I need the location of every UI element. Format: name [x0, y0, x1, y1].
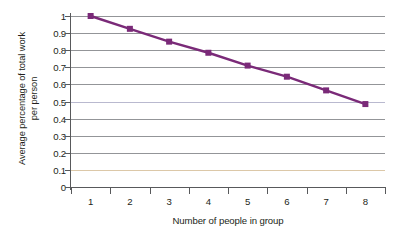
y-axis-tick-label: 0.6	[34, 79, 66, 90]
x-axis-tick-mark	[110, 188, 111, 194]
data-point-marker	[245, 63, 251, 69]
x-axis-tick-labels: 12345678	[71, 196, 385, 210]
x-axis-tick-mark	[71, 188, 72, 194]
data-series-line	[71, 16, 385, 187]
y-axis-tick-label: 0.5	[34, 96, 66, 107]
y-axis-tick-mark	[65, 102, 71, 103]
x-axis-tick-label: 2	[118, 196, 142, 207]
x-axis-tick-label: 4	[196, 196, 220, 207]
x-axis-tick-label: 7	[314, 196, 338, 207]
y-axis-tick-mark	[65, 119, 71, 120]
y-axis-tick-label: 0.2	[34, 147, 66, 158]
x-axis-tick-label: 6	[275, 196, 299, 207]
y-axis-tick-label: 0	[34, 182, 66, 193]
data-point-marker	[205, 50, 211, 56]
y-axis-tick-label: 0.3	[34, 130, 66, 141]
x-axis-tick-mark	[307, 188, 308, 194]
data-point-marker	[323, 87, 329, 93]
y-axis-tick-label: 1	[34, 11, 66, 22]
y-axis-tick-mark	[65, 136, 71, 137]
y-axis-tick-mark	[65, 84, 71, 85]
y-axis-title-line-1: Average percentage of total work	[18, 31, 30, 164]
x-axis-tick-mark	[228, 188, 229, 194]
y-axis-tick-mark	[65, 153, 71, 154]
x-axis-tick-label: 3	[157, 196, 181, 207]
data-point-marker	[362, 101, 368, 107]
y-axis-tick-mark	[65, 33, 71, 34]
y-axis-tick-label: 0.7	[34, 62, 66, 73]
data-point-marker	[166, 39, 172, 45]
y-axis-tick-mark	[65, 170, 71, 171]
x-axis-tick-mark	[267, 188, 268, 194]
x-axis-tick-mark	[346, 188, 347, 194]
y-axis-tick-label: 0.9	[34, 28, 66, 39]
y-axis-tick-label: 0.1	[34, 164, 66, 175]
x-axis-tick-label: 5	[236, 196, 260, 207]
plot-area	[71, 16, 385, 187]
y-axis-tick-mark	[65, 67, 71, 68]
data-point-marker	[88, 13, 94, 19]
y-axis-tick-label: 0.4	[34, 113, 66, 124]
x-axis-title: Number of people in group	[71, 215, 385, 226]
x-axis-tick-label: 1	[79, 196, 103, 207]
y-axis-tick-mark	[65, 16, 71, 17]
y-axis-tick-mark	[65, 50, 71, 51]
y-axis-tick-label: 0.8	[34, 45, 66, 56]
chart-screenshot: Average percentage of total work per per…	[0, 0, 408, 243]
data-point-marker	[127, 26, 133, 32]
x-axis-tick-mark	[385, 188, 386, 194]
data-point-marker	[284, 74, 290, 80]
x-axis-tick-mark	[189, 188, 190, 194]
x-axis-tick-mark	[150, 188, 151, 194]
x-axis-tick-label: 8	[353, 196, 377, 207]
y-axis-tick-labels: 10.90.80.70.60.50.40.30.20.10	[34, 0, 66, 196]
